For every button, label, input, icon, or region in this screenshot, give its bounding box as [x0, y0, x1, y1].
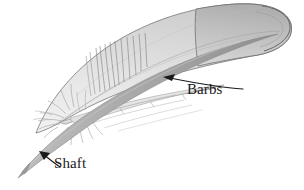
label-barbs: Barbs: [187, 82, 223, 97]
feather-illustration: [0, 0, 304, 190]
feather-diagram-figure: Barbs Shaft: [0, 0, 304, 190]
label-shaft: Shaft: [54, 156, 86, 171]
upper-vane: [36, 4, 292, 133]
